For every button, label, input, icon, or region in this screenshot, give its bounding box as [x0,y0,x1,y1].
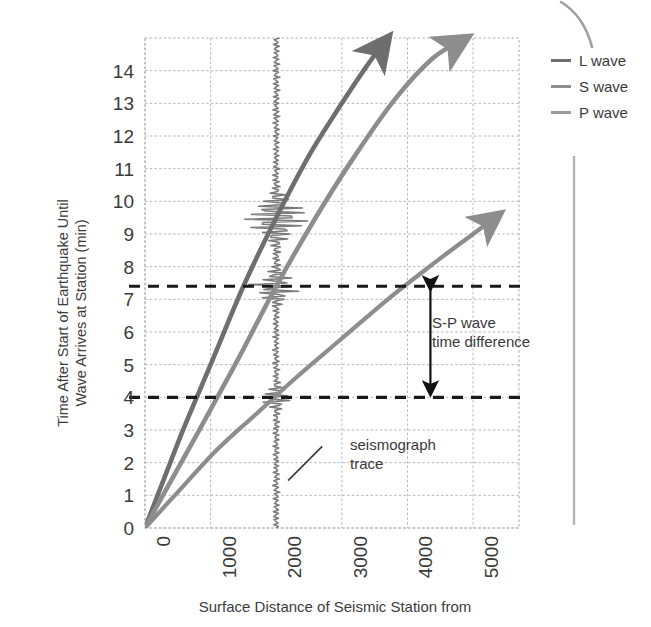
legend-swatch-icon [551,59,571,62]
s-p-label-line1: S-P wave [432,314,530,333]
legend-item-label: L wave [579,52,626,69]
legend-item-p-wave[interactable]: P wave [551,99,651,125]
x-tick-label: 3000 [351,536,370,578]
legend-swatch-icon [551,85,571,88]
x-tick-label: 5000 [482,536,501,578]
legend-swatch-icon [551,111,571,114]
legend-item-label: P wave [579,104,628,121]
x-tick-label: 4000 [416,536,435,578]
s-p-wave-time-difference-label: S-P wave time difference [432,314,530,352]
x-tick-label: 0 [154,536,173,547]
x-tick-label: 2000 [285,536,304,578]
legend-item-label: S wave [579,78,628,95]
seismograph-label-line2: trace [350,455,436,474]
s-p-label-line2: time difference [432,333,530,352]
seismic-travel-time-figure: Time After Start of Earthquake Until Wav… [0,0,651,627]
legend-item-l-wave[interactable]: L wave [551,47,651,73]
x-tick-label: 1000 [220,536,239,578]
chart-legend: L waveS waveP wave [551,47,651,125]
x-axis-title: Surface Distance of Seismic Station from [120,598,550,615]
legend-item-s-wave[interactable]: S wave [551,73,651,99]
seismograph-trace-label: seismograph trace [350,436,436,474]
seismograph-label-line1: seismograph [350,436,436,455]
